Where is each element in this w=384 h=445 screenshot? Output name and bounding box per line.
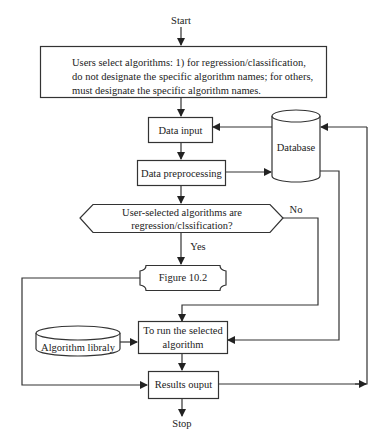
edge-label-no: No	[286, 203, 306, 216]
select-line-3: must designate the specific algorithm na…	[72, 84, 261, 99]
data-input-box: Data input	[148, 124, 213, 137]
figure-10-2-box: Figure 10.2	[140, 271, 226, 284]
start-label: Start	[161, 14, 201, 27]
run-line-1: To run the selected	[138, 324, 228, 337]
decision-line-1: User-selected algorithms are	[90, 206, 274, 219]
stop-label: Stop	[162, 417, 202, 430]
edge-label-yes: Yes	[186, 240, 210, 253]
decision-line-2: regression/clssification?	[90, 219, 274, 232]
select-line-1: Users select algorithms: 1) for regressi…	[72, 56, 306, 71]
algorithm-library-label: Algorithm libraly	[36, 341, 120, 354]
run-line-2: algorithm	[138, 338, 228, 351]
results-output-box: Results ouput	[148, 378, 219, 391]
select-line-2: do not designate the specific algorithm …	[72, 70, 313, 85]
data-preprocessing-box: Data preprocessing	[137, 167, 226, 180]
database-label: Database	[272, 141, 320, 154]
